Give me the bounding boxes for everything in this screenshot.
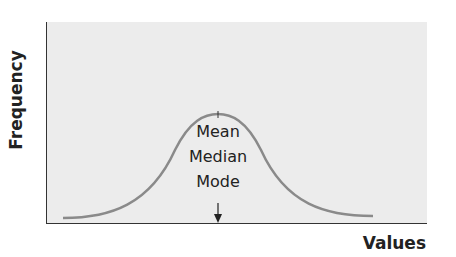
mean-label: Mean [196,122,240,141]
x-axis-label: Values [363,233,426,253]
arrow-head-icon [214,214,222,223]
y-axis-label: Frequency [6,50,26,150]
mode-label: Mode [196,172,240,191]
median-label: Median [189,147,247,166]
